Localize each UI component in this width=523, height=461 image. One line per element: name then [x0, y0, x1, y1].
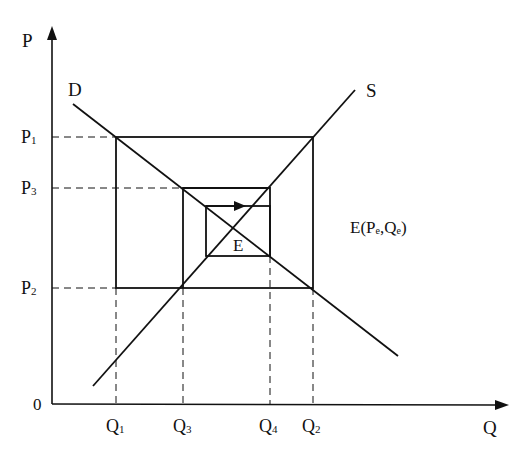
equilibrium-annotation: E(Pe,Qe) — [350, 218, 407, 237]
diagram-svg: P Q 0 D S P1 P3 P2 Q1 Q3 Q4 Q2 E E(Pe,Qe… — [0, 0, 523, 461]
price-label-p2: P2 — [21, 278, 37, 298]
price-label-p3: P3 — [21, 178, 37, 198]
cobweb-diagram: P Q 0 D S P1 P3 P2 Q1 Q3 Q4 Q2 E E(Pe,Qe… — [0, 0, 523, 461]
demand-label: D — [68, 79, 82, 100]
supply-label: S — [366, 80, 377, 101]
equilibrium-point-label: E — [233, 236, 243, 255]
quantity-label-q1: Q1 — [106, 416, 125, 436]
quantity-label-q4: Q4 — [259, 416, 278, 436]
price-guides — [52, 137, 183, 288]
y-axis-label: P — [22, 30, 33, 51]
quantity-guides — [116, 256, 313, 404]
quantity-label-q2: Q2 — [302, 416, 321, 436]
quantity-label-q3: Q3 — [173, 416, 192, 436]
x-axis-arrow-icon — [495, 400, 509, 410]
y-axis-arrow-icon — [47, 26, 57, 40]
price-label-p1: P1 — [21, 127, 37, 147]
direction-arrow-head-icon — [234, 201, 246, 211]
x-axis — [52, 404, 498, 405]
origin-label: 0 — [33, 395, 42, 414]
supply-curve — [93, 90, 355, 386]
x-axis-label: Q — [483, 417, 497, 438]
